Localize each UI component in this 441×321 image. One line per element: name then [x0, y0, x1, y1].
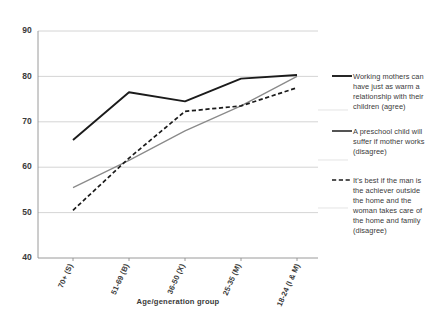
series-preschool-child-line — [73, 76, 297, 187]
x-tick-label: 18-24 (I & M) — [275, 262, 302, 308]
gridlines — [38, 31, 318, 213]
y-tick-label: 70 — [22, 116, 32, 126]
y-tick-label: 40 — [22, 252, 32, 262]
chart-canvas: 90 80 70 60 50 40 70+ (S) 51-69 (B) 36-5… — [0, 0, 441, 321]
legend-line: It's best if the man is — [353, 176, 422, 185]
x-tick-label: 36-50 (X) — [165, 262, 187, 296]
x-axis-title: Age/generation group — [137, 297, 220, 306]
x-tick-label: 70+ (S) — [56, 262, 75, 290]
legend-line: (disagree) — [353, 147, 387, 156]
legend-line: have just as warm a — [353, 82, 421, 91]
legend-entry-man-achiever[interactable]: It's best if the man is the achiever out… — [352, 176, 423, 235]
legend-line: the achiever outside — [353, 186, 420, 195]
legend-line: A preschool child will — [353, 127, 423, 136]
x-tick-marks — [73, 258, 297, 261]
legend-entry-working-mothers[interactable]: Working mothers can have just as warm a … — [353, 72, 424, 111]
x-tick-label: 25-35 (M) — [221, 262, 243, 297]
legend-entry-preschool-child[interactable]: A preschool child will suffer if mother … — [353, 127, 425, 156]
legend-line: suffer if mother works — [353, 137, 425, 146]
y-tick-label: 50 — [22, 207, 32, 217]
series-man-achiever-line — [73, 88, 297, 211]
legend-line: woman takes care of — [352, 206, 423, 215]
legend-line: the home and the — [353, 196, 411, 205]
legend-line: Working mothers can — [353, 72, 424, 81]
line-chart: 90 80 70 60 50 40 70+ (S) 51-69 (B) 36-5… — [0, 0, 441, 321]
y-tick-label: 60 — [22, 161, 32, 171]
x-tick-label: 51-69 (B) — [109, 262, 131, 296]
legend-line: (disagree) — [353, 226, 387, 235]
legend-line: relationship with their — [353, 92, 424, 101]
legend-line: children (agree) — [353, 102, 406, 111]
y-tick-label: 80 — [22, 71, 32, 81]
legend-line: the home and family — [353, 216, 421, 225]
y-tick-label: 90 — [22, 25, 32, 35]
